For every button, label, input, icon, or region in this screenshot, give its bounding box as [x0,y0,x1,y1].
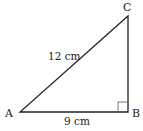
right-angle-marker [118,102,128,112]
triangle-abc [20,16,128,112]
side-label-ac: 12 cm [48,50,81,62]
vertex-label-a: A [4,107,14,120]
side-label-ab: 9 cm [64,115,90,127]
vertex-label-b: B [132,107,140,120]
right-triangle-diagram: A B C 12 cm 9 cm [0,0,143,131]
vertex-label-c: C [123,1,131,14]
